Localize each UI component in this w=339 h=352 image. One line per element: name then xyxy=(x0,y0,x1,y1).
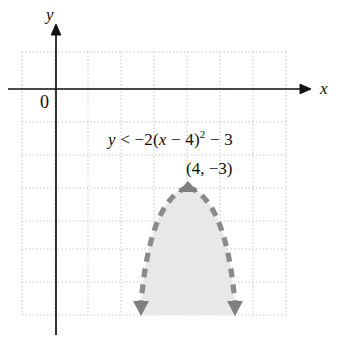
vertex-marker xyxy=(178,181,198,192)
coordinate-plane-svg xyxy=(0,0,339,352)
inequality-inner-op: − xyxy=(171,130,181,149)
vertex-coordinate-label: (4, −3) xyxy=(186,160,232,177)
shaded-solution-region xyxy=(140,187,236,316)
graph-figure: y x 0 y < −2(x − 4)2 − 3 (4, −3) xyxy=(0,0,339,352)
inequality-trailing-op: − xyxy=(210,130,220,149)
inequality-lhs: y xyxy=(108,130,116,149)
inequality-relation: < xyxy=(120,130,130,149)
inequality-inner-var: x xyxy=(159,130,167,149)
origin-label: 0 xyxy=(40,93,49,111)
inequality-coefficient: −2 xyxy=(134,130,153,149)
inequality-trailing-const: 3 xyxy=(224,130,233,149)
inequality-inner-const: 4 xyxy=(185,130,194,149)
y-axis-label: y xyxy=(46,6,54,23)
x-axis-label: x xyxy=(320,80,328,97)
inequality-annotation: y < −2(x − 4)2 − 3 xyxy=(108,131,233,148)
